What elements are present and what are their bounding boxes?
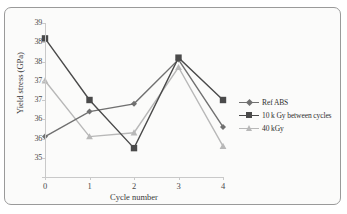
x-axis-tick-mark <box>223 177 224 180</box>
legend-swatch-triangle-icon <box>239 123 259 133</box>
legend-swatch-diamond-icon <box>239 97 259 107</box>
y-axis-tick-mark <box>42 23 45 24</box>
figure-frame: 3938383737363635 01234 Yield stress (GPa… <box>4 7 341 205</box>
series-ref-abs <box>42 57 226 140</box>
y-axis-tick-label: 35 <box>20 153 42 162</box>
legend-item-label: 40 kGy <box>262 124 284 133</box>
x-axis-title: Cycle number <box>45 192 223 202</box>
data-point-marker <box>87 109 93 115</box>
plot-area: 3938383737363635 01234 Yield stress (GPa… <box>5 8 342 206</box>
y-axis-tick-mark <box>42 81 45 82</box>
x-axis-tick-label: 2 <box>124 181 144 191</box>
legend-item-label: 10 k Gy between cycles <box>262 111 331 120</box>
y-axis-tick-mark <box>42 158 45 159</box>
legend-item[interactable]: 10 k Gy between cycles <box>239 109 341 121</box>
data-point-marker <box>175 54 181 60</box>
y-axis-tick-mark <box>42 42 45 43</box>
chart-legend: Ref ABS10 k Gy between cycles40 kGy <box>239 96 341 135</box>
y-axis-tick-mark <box>42 100 45 101</box>
y-axis-tick-label: 39 <box>20 18 42 27</box>
x-axis-tick-label: 1 <box>80 181 100 191</box>
x-axis-tick-mark <box>179 177 180 180</box>
legend-swatch-square-icon <box>239 110 259 120</box>
y-axis-tick-label: 36 <box>20 134 42 143</box>
data-point-marker <box>86 97 92 103</box>
data-point-marker <box>220 143 227 149</box>
data-point-marker <box>131 145 137 151</box>
data-point-marker <box>175 64 182 70</box>
y-axis-tick-mark <box>42 119 45 120</box>
x-axis-tick-label: 4 <box>213 181 233 191</box>
x-axis-tick-mark <box>134 177 135 180</box>
x-axis-tick-mark <box>45 177 46 180</box>
y-axis-title: Yield stress (GPa) <box>15 41 25 125</box>
legend-item[interactable]: Ref ABS <box>239 96 341 108</box>
x-axis-tick-mark <box>90 177 91 180</box>
x-axis-tick-label: 0 <box>35 181 55 191</box>
legend-item[interactable]: 40 kGy <box>239 122 341 134</box>
legend-item-label: Ref ABS <box>262 98 288 107</box>
x-axis-tick-label: 3 <box>169 181 189 191</box>
y-axis-tick-mark <box>42 139 45 140</box>
y-axis-line <box>45 23 46 177</box>
y-axis-tick-mark <box>42 62 45 63</box>
data-point-marker <box>220 97 226 103</box>
